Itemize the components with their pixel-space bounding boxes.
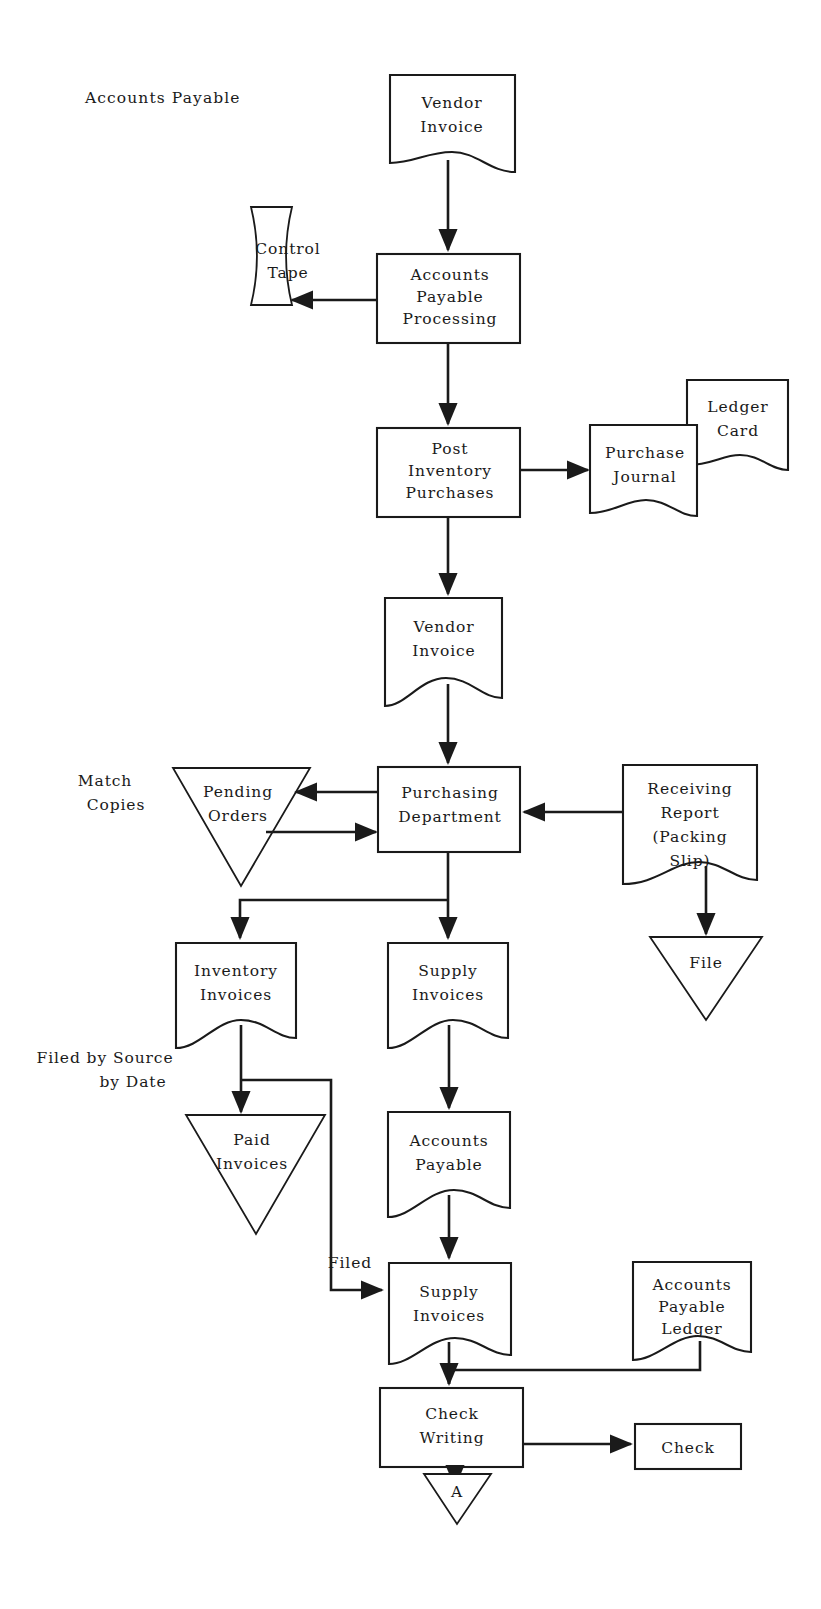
node-label: A bbox=[450, 1483, 463, 1501]
node-label-line1: Receiving bbox=[647, 780, 732, 798]
node-label-line1: Check bbox=[661, 1439, 715, 1457]
node-label-line2: Invoices bbox=[200, 986, 272, 1004]
node-check-writing[interactable]: Check Writing bbox=[380, 1388, 523, 1467]
node-label-line4: Slip) bbox=[669, 852, 710, 870]
edge-label-filed: Filed bbox=[328, 1254, 372, 1272]
node-pending-orders[interactable]: Pending Orders bbox=[173, 768, 310, 886]
node-label-line2: Invoice bbox=[420, 118, 483, 136]
node-file-triangle[interactable]: File bbox=[650, 937, 762, 1020]
node-label-line1: Ledger bbox=[707, 398, 768, 416]
node-vendor-invoice-top[interactable]: Vendor Invoice bbox=[390, 75, 515, 172]
node-post-inventory-purchases[interactable]: Post Inventory Purchases bbox=[377, 428, 520, 517]
accounts-payable-flowchart: Accounts Payable Vendor Invoice Control … bbox=[0, 0, 821, 1609]
node-label-line2: Payable bbox=[416, 288, 483, 306]
node-paid-invoices[interactable]: Paid Invoices bbox=[186, 1115, 325, 1234]
node-label-line2: Orders bbox=[208, 807, 268, 825]
node-label-line1: Inventory bbox=[194, 962, 278, 980]
node-label-line1: Pending bbox=[203, 783, 273, 801]
node-label-line1: Post bbox=[432, 440, 469, 458]
node-label-line2: Card bbox=[717, 422, 759, 440]
node-label-line2: Writing bbox=[420, 1429, 485, 1447]
node-control-tape[interactable]: Control Tape bbox=[251, 207, 321, 305]
label-line1: Filed by Source bbox=[37, 1049, 174, 1067]
process-shape bbox=[380, 1388, 523, 1467]
node-label-line2: Payable bbox=[658, 1298, 725, 1316]
node-label-line1: Check bbox=[425, 1405, 479, 1423]
node-label-line1: Accounts bbox=[651, 1276, 731, 1294]
label-line2: by Date bbox=[100, 1073, 167, 1091]
label-line2: Copies bbox=[87, 796, 146, 814]
node-label-line2: Invoices bbox=[413, 1307, 485, 1325]
node-vendor-invoice-mid[interactable]: Vendor Invoice bbox=[385, 598, 502, 706]
node-ap-processing[interactable]: Accounts Payable Processing bbox=[377, 254, 520, 343]
node-label-line1: Accounts bbox=[408, 1132, 488, 1150]
node-label-line1: File bbox=[689, 954, 722, 972]
node-purchasing-department[interactable]: Purchasing Department bbox=[378, 767, 520, 852]
node-label-line3: Processing bbox=[403, 310, 498, 328]
node-label-line1: Control bbox=[255, 240, 320, 258]
filed-by-source-label: Filed by Source by Date bbox=[37, 1049, 174, 1091]
node-ledger-card[interactable]: Ledger Card bbox=[687, 380, 788, 470]
node-label-line2: Department bbox=[398, 808, 501, 826]
node-connector-a[interactable]: A bbox=[424, 1474, 491, 1524]
node-label-line3: Purchases bbox=[406, 484, 495, 502]
node-label-line2: Invoices bbox=[412, 986, 484, 1004]
node-label-line2: Journal bbox=[611, 468, 676, 486]
node-purchase-journal[interactable]: Purchase Journal bbox=[590, 425, 697, 516]
triangle-file-shape bbox=[650, 937, 762, 1020]
node-label-line2: Payable bbox=[415, 1156, 482, 1174]
node-label-line2: Invoices bbox=[216, 1155, 288, 1173]
node-label-line1: Purchasing bbox=[401, 784, 499, 802]
node-label-line2: Report bbox=[660, 804, 719, 822]
node-label-line1: Supply bbox=[419, 1283, 479, 1301]
match-copies-label: Match Copies bbox=[78, 772, 146, 814]
page-title: Accounts Payable bbox=[84, 89, 241, 107]
node-label-line1: Accounts bbox=[409, 266, 489, 284]
node-label-line1: Paid bbox=[233, 1131, 270, 1149]
node-label-line3: (Packing bbox=[652, 828, 727, 846]
edge-purchasing-to-inventory-invoices bbox=[240, 900, 448, 938]
node-label-line1: Vendor bbox=[413, 618, 475, 636]
node-inventory-invoices[interactable]: Inventory Invoices bbox=[176, 943, 296, 1048]
node-receiving-report[interactable]: Receiving Report (Packing Slip) bbox=[623, 765, 757, 884]
node-label-line2: Tape bbox=[267, 264, 308, 282]
label-line1: Match bbox=[78, 772, 133, 790]
node-label-line2: Inventory bbox=[408, 462, 492, 480]
node-accounts-payable-ledger[interactable]: Accounts Payable Ledger bbox=[633, 1262, 751, 1360]
node-check[interactable]: Check bbox=[635, 1424, 741, 1469]
node-label-line3: Ledger bbox=[661, 1320, 722, 1338]
node-label-line1: Purchase bbox=[605, 444, 685, 462]
node-label-line1: Supply bbox=[418, 962, 478, 980]
node-label-line2: Invoice bbox=[412, 642, 475, 660]
node-label-line1: Vendor bbox=[421, 94, 483, 112]
